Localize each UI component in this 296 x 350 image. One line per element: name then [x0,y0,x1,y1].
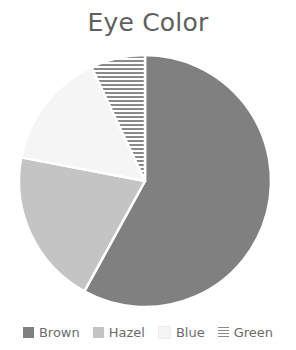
hazel-swatch-icon [93,327,104,338]
pie-svg [0,44,296,316]
brown-swatch-icon [23,327,34,338]
legend: Brown Hazel Blue Green [0,320,296,344]
legend-label-blue: Blue [176,325,205,340]
legend-item-hazel[interactable]: Hazel [93,325,145,340]
legend-label-brown: Brown [39,325,80,340]
legend-item-green[interactable]: Green [218,325,273,340]
legend-item-brown[interactable]: Brown [23,325,80,340]
green-swatch-icon [218,327,229,338]
pie-chart-figure: Eye Color Brown Hazel Blue [0,0,296,350]
legend-label-green: Green [234,325,273,340]
pie-plot-area [0,44,296,316]
page-title: Eye Color [0,6,296,40]
legend-item-blue[interactable]: Blue [158,325,205,340]
blue-swatch-icon [158,326,171,339]
legend-label-hazel: Hazel [109,325,145,340]
